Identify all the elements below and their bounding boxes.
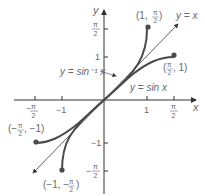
label-point-neg-1-neg-pi-half: (−1, − π 2 ) (43, 178, 79, 193)
y-tick-1: 1 (95, 52, 100, 62)
x-axis-label: x (192, 101, 199, 113)
svg-text:2: 2 (168, 69, 172, 76)
svg-text:2: 2 (32, 112, 36, 119)
point-neg-pi-half-neg-1 (33, 139, 38, 144)
label-point-pi-half-1: ( π 2 , 1) (163, 61, 187, 76)
y-tick-neg-1: −1 (91, 138, 101, 148)
svg-text:π: π (69, 178, 74, 185)
y-axis-label: y (92, 4, 100, 16)
point-neg-1-neg-pi-half (59, 167, 64, 172)
svg-text:, −1): , −1) (24, 123, 44, 134)
x-tick-1: 1 (144, 105, 149, 115)
svg-text:2: 2 (19, 130, 23, 137)
x-tick-pi-half: π 2 (170, 103, 178, 119)
x-tick-neg-1: −1 (56, 105, 66, 115)
svg-text:(−1, −: (−1, − (43, 179, 69, 190)
svg-text:2: 2 (70, 186, 74, 193)
svg-text:π: π (18, 122, 23, 129)
svg-text:π: π (93, 21, 98, 28)
svg-text:−: − (86, 166, 91, 176)
label-arcsine: y = sin⁻¹ x (59, 66, 106, 77)
label-identity: y = x (175, 10, 198, 21)
svg-text:2: 2 (172, 112, 176, 119)
point-pi-half-1 (171, 52, 176, 57)
label-sine: y = sin x (129, 82, 168, 93)
svg-text:): ) (76, 179, 79, 190)
y-tick-neg-pi-half: − π 2 (86, 163, 100, 179)
svg-text:π: π (153, 9, 158, 16)
svg-text:, 1): , 1) (173, 62, 187, 73)
svg-text:2: 2 (154, 17, 158, 24)
inverse-sine-graph: y x − π 2 −1 1 π 2 π 2 1 −1 − π 2 (1, π (0, 0, 205, 196)
svg-text:(1,: (1, (136, 10, 148, 21)
y-tick-pi-half: π 2 (92, 21, 100, 37)
label-point-neg-pi-half-neg-1: (− π 2 , −1) (8, 122, 44, 137)
x-tick-neg-pi-half: − π 2 (26, 103, 38, 119)
point-1-pi-half (145, 24, 150, 29)
svg-text:2: 2 (94, 30, 98, 37)
svg-text:2: 2 (94, 172, 98, 179)
svg-text:π: π (167, 61, 172, 68)
svg-text:(−: (− (8, 123, 17, 134)
svg-text:π: π (31, 103, 36, 110)
svg-text:): ) (159, 10, 162, 21)
label-point-1-pi-half: (1, π 2 ) (136, 9, 162, 24)
svg-text:π: π (93, 163, 98, 170)
svg-text:π: π (171, 103, 176, 110)
